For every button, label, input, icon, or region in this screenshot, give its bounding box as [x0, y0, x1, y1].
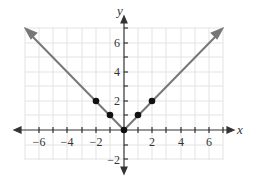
y-tick-label: 2: [114, 94, 120, 108]
x-tick-label: −4: [61, 135, 74, 149]
graph-left-arrow-icon: [26, 29, 36, 38]
point: [107, 112, 114, 119]
x-axis-label: x: [236, 122, 243, 137]
y-tick-label: 4: [114, 65, 120, 79]
x-tick-label: 2: [149, 135, 155, 149]
point: [135, 112, 142, 119]
y-tick-label: 6: [114, 36, 120, 50]
point: [149, 98, 156, 105]
x-axis-right-arrow-icon: [227, 127, 234, 133]
y-axis-label: y: [115, 3, 123, 18]
x-tick-label: −2: [90, 135, 103, 149]
point: [121, 127, 128, 134]
y-axis-bottom-arrow-icon: [121, 167, 127, 174]
graph-right-arrow-icon: [212, 29, 222, 38]
x-tick-label: 6: [206, 135, 212, 149]
axes: [14, 16, 234, 174]
x-tick-labels: −6 −4 −2 2 4 6: [33, 135, 212, 149]
y-tick-label: −2: [107, 153, 120, 167]
coordinate-plane: −6 −4 −2 2 4 6 6 4 2 −2 y x: [0, 0, 254, 183]
point: [93, 98, 100, 105]
x-tick-label: 4: [178, 135, 184, 149]
x-tick-label: −6: [33, 135, 46, 149]
x-axis-left-arrow-icon: [14, 127, 21, 133]
